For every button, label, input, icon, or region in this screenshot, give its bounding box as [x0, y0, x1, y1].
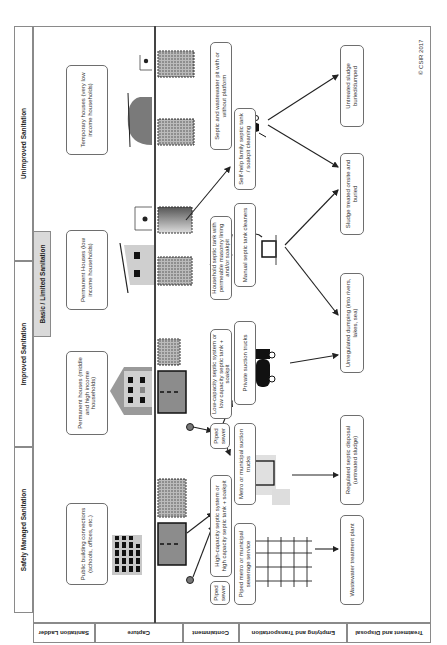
- containment-high-capacity: High-capacity septic system or high capa…: [210, 475, 232, 577]
- treatment-tank-icon: [250, 455, 290, 505]
- sanitation-diagram: Sanitation Ladder Capture Containment Em…: [0, 0, 447, 645]
- treatment-onsite: Sludge treated onsite and buried: [340, 153, 364, 235]
- emptying-self-help: Self-help family septic tank / soakpit c…: [234, 108, 256, 190]
- septic-tank-icon: [158, 479, 194, 584]
- office-building-icon: [112, 535, 142, 575]
- emptying-private-trucks: Private suction trucks: [234, 321, 256, 405]
- emptying-piped-metro: Piped metro or municipal sewerage servic…: [234, 523, 256, 605]
- small-house-icon: [120, 243, 154, 293]
- shack-icon: [128, 55, 152, 147]
- latrine-shelter-icon: [135, 207, 152, 230]
- emptying-manual-cleaners: Manual septic tank cleaners: [234, 203, 256, 287]
- septic-tank-icon: [158, 339, 194, 431]
- emptying-metro-trucks: Metro or municipal suction trucks: [234, 423, 256, 505]
- apartment-house-icon: [110, 367, 152, 415]
- treatment-untreated: Untreated sludge buried/dumped: [340, 45, 364, 127]
- soakpit-icon: [158, 51, 194, 285]
- sewer-network-icon: [250, 537, 312, 587]
- treatment-unregulated: Unregulated dumping (into rivers, lakes,…: [340, 273, 364, 373]
- copyright-text: © CSIR 2017: [418, 40, 424, 75]
- containment-low-capacity: Low-capacity septic system or low capaci…: [210, 329, 232, 419]
- containment-piped-sewer: Piped sewer: [210, 581, 230, 605]
- containment-septic-pit: Septic and wastewater pit with or withou…: [210, 42, 232, 150]
- containment-household-septic: Household septic tank with permeable mas…: [210, 216, 232, 300]
- treatment-wwtp: Wastewater treatment plant: [340, 515, 364, 605]
- containment-piped-sewer-2: Piped sewer: [210, 423, 230, 449]
- treatment-regulated: Regulated septic disposal (untreated slu…: [340, 415, 364, 505]
